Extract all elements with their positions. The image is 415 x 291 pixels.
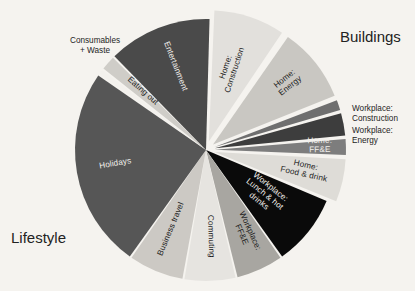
pie-chart-figure: Home:ConstructionHome:EnergyHome:FF&EHom… [0,0,415,291]
slice-label-workplace-energy: Workplace: Energy [352,126,414,146]
group-label-buildings: Buildings [340,28,401,45]
slice-label-consumables-waste: Consumables + Waste [56,36,134,56]
pie-slice-label: Home:FF&E [307,136,332,155]
group-label-lifestyle: Lifestyle [11,229,66,246]
pie-slice-label: Commuting [206,215,216,258]
slice-label-workplace-construction: Workplace: Construction [352,104,414,124]
